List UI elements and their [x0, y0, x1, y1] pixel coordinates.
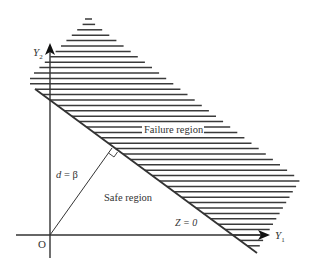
y1-axis-label: Y1 [275, 229, 285, 244]
y2-axis-label: Y2 [33, 46, 43, 61]
beta-distance-line [50, 148, 112, 235]
limit-state-label: Z = 0 [175, 217, 197, 228]
failure-region-label: Failure region [144, 124, 204, 135]
beta-distance-label: d = β [56, 169, 78, 180]
limit-state-diagram: Y2 Y1 O Failure region Safe region Z = 0… [0, 0, 316, 271]
safe-region-label: Safe region [104, 192, 153, 203]
right-angle-marker [109, 152, 118, 157]
origin-label: O [38, 238, 46, 250]
